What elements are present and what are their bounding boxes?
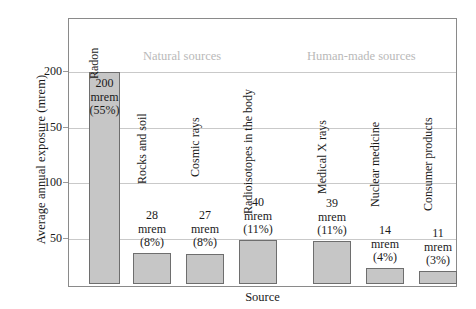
- bar-value-unit-radioisotopes-in-the-body: mrem: [238, 210, 278, 224]
- bar-value-number-radon: 200: [85, 77, 124, 91]
- bar-label-nuclear-medicine: Nuclear medicine: [369, 122, 381, 207]
- bar-value-unit-rocks-and-soil: mrem: [132, 223, 172, 237]
- y-tick-label-100: 100: [22, 176, 62, 188]
- bar-cosmic-rays: [186, 254, 224, 284]
- bar-value-cosmic-rays: 27 mrem (8%): [185, 209, 225, 250]
- bar-value-number-rocks-and-soil: 28: [132, 209, 172, 223]
- bar-value-unit-medical-x-rays: mrem: [312, 211, 352, 225]
- bar-radioisotopes-in-the-body: [239, 240, 277, 284]
- bar-consumer-products: [419, 271, 457, 284]
- bar-label-cosmic-rays: Cosmic rays: [189, 117, 201, 177]
- bar-value-number-cosmic-rays: 27: [185, 209, 225, 223]
- bar-value-unit-nuclear-medicine: mrem: [365, 238, 405, 252]
- bar-value-percent-rocks-and-soil: (8%): [132, 236, 172, 250]
- bar-label-medical-x-rays: Medical X rays: [316, 120, 328, 194]
- bar-value-medical-x-rays: 39 mrem (11%): [312, 197, 352, 238]
- bar-value-rocks-and-soil: 28 mrem (8%): [132, 209, 172, 250]
- gridline-150: [69, 128, 456, 129]
- bar-label-rocks-and-soil: Rocks and soil: [136, 113, 148, 184]
- bar-value-radon: 200 mrem (55%): [85, 77, 124, 118]
- bar-value-unit-cosmic-rays: mrem: [185, 223, 225, 237]
- bar-value-percent-consumer-products: (3%): [418, 254, 458, 268]
- y-tick-label-150: 150: [22, 121, 62, 133]
- bar-value-number-consumer-products: 11: [418, 227, 458, 241]
- bar-rocks-and-soil: [133, 253, 171, 284]
- bar-value-percent-radioisotopes-in-the-body: (11%): [238, 223, 278, 237]
- bar-value-number-nuclear-medicine: 14: [365, 224, 405, 238]
- bar-nuclear-medicine: [366, 268, 404, 284]
- bar-value-percent-nuclear-medicine: (4%): [365, 251, 405, 265]
- gridline-100: [69, 183, 456, 184]
- y-tick-label-50: 50: [22, 232, 62, 244]
- group-label-human-made-sources: Human-made sources: [307, 49, 416, 64]
- bar-value-consumer-products: 11 mrem (3%): [418, 227, 458, 268]
- bar-value-number-medical-x-rays: 39: [312, 197, 352, 211]
- gridline-200: [69, 72, 456, 73]
- bar-value-radioisotopes-in-the-body: 40 mrem (11%): [238, 196, 278, 237]
- bar-label-radon: Radon: [88, 48, 100, 79]
- bar-value-percent-radon: (55%): [85, 104, 124, 118]
- plot-area: Natural sources Human-made sources Radon…: [68, 18, 457, 287]
- bar-value-percent-medical-x-rays: (11%): [312, 224, 352, 238]
- bar-value-unit-radon: mrem: [85, 91, 124, 105]
- bar-value-nuclear-medicine: 14 mrem (4%): [365, 224, 405, 265]
- bar-value-percent-cosmic-rays: (8%): [185, 236, 225, 250]
- x-axis-title: Source: [68, 290, 457, 305]
- group-label-natural-sources: Natural sources: [143, 49, 221, 64]
- bar-medical-x-rays: [313, 241, 351, 284]
- bar-label-consumer-products: Consumer products: [422, 117, 434, 211]
- y-tick-label-200: 200: [22, 65, 62, 77]
- bar-value-number-radioisotopes-in-the-body: 40: [238, 196, 278, 210]
- bar-value-unit-consumer-products: mrem: [418, 241, 458, 255]
- radiation-exposure-bar-chart: Average annual exposure (mrem) 200 150 1…: [0, 0, 476, 309]
